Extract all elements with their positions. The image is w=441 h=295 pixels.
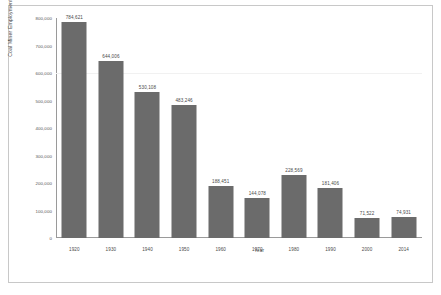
bar-group: 74,9312014	[385, 18, 422, 238]
bar-value-label: 181,406	[322, 181, 339, 186]
bar-group: 144,0781970	[239, 18, 276, 238]
bar-value-label: 188,451	[212, 179, 229, 184]
bar-group: 188,4511960	[202, 18, 239, 238]
bar[interactable]	[245, 198, 270, 238]
y-axis-tick-label: 500,000	[35, 98, 52, 103]
bar-group: 71,5222000	[349, 18, 386, 238]
bar-value-label: 71,522	[360, 211, 375, 216]
bar[interactable]	[281, 175, 306, 238]
x-axis-tick-label: 1940	[142, 247, 153, 252]
y-axis-tick-label: 300,000	[35, 153, 52, 158]
bar-group: 644,0061930	[93, 18, 130, 238]
bar-group: 483,2461950	[166, 18, 203, 238]
bar[interactable]	[318, 188, 343, 238]
bar-value-label: 784,621	[66, 15, 83, 20]
y-axis-tick-label: 600,000	[35, 71, 52, 76]
bar[interactable]	[62, 22, 87, 238]
y-axis-tick-label: 400,000	[35, 126, 52, 131]
chart-frame: Coal Miner Employment 0100,000200,000300…	[8, 5, 433, 283]
x-axis-tick-label: 1990	[325, 247, 336, 252]
bar[interactable]	[98, 61, 123, 238]
x-axis-title: Year	[254, 248, 264, 253]
bar-group: 530,1081940	[129, 18, 166, 238]
bar[interactable]	[135, 92, 160, 238]
y-axis-tick-label: 800,000	[35, 16, 52, 21]
x-axis-tick-label: 1980	[289, 247, 300, 252]
bar-value-label: 144,078	[249, 191, 266, 196]
bar-value-label: 74,931	[396, 210, 411, 215]
bar[interactable]	[172, 105, 197, 238]
y-axis-title: Coal Miner Employment	[7, 0, 13, 88]
bar-value-label: 530,108	[139, 85, 156, 90]
x-axis-tick-label: 1960	[215, 247, 226, 252]
y-axis-tick-label: 700,000	[35, 43, 52, 48]
bar-value-label: 644,006	[102, 54, 119, 59]
x-axis-tick-label: 1920	[69, 247, 80, 252]
plot-area: 0100,000200,000300,000400,000500,000600,…	[56, 18, 422, 238]
x-axis-tick-label: 1950	[179, 247, 190, 252]
x-axis-tick-label: 2000	[362, 247, 373, 252]
bar-group: 181,4061990	[312, 18, 349, 238]
bar-group: 228,5691980	[276, 18, 313, 238]
x-axis-tick-label: 2014	[398, 247, 409, 252]
bar-value-label: 483,246	[175, 98, 192, 103]
bar[interactable]	[355, 218, 380, 238]
bar-group: 784,6211920	[56, 18, 93, 238]
y-axis-tick-label: 100,000	[35, 208, 52, 213]
x-axis-tick-label: 1930	[106, 247, 117, 252]
y-axis-tick-label: 0	[49, 236, 52, 241]
bar[interactable]	[208, 186, 233, 238]
y-axis-tick-label: 200,000	[35, 181, 52, 186]
bar[interactable]	[391, 217, 416, 238]
bar-value-label: 228,569	[285, 168, 302, 173]
